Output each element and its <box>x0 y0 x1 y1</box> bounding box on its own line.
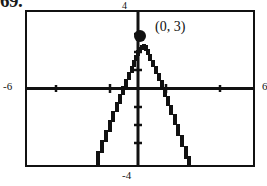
axis-label-top: 4 <box>122 0 127 11</box>
axis-label-right: 6 <box>262 81 267 92</box>
vertex-point-marker <box>134 30 146 42</box>
parabola-curve <box>96 44 191 165</box>
axis-label-bottom: -4 <box>122 170 131 181</box>
axis-label-left: -6 <box>3 81 12 92</box>
figure-container: 69. <box>0 0 267 186</box>
point-coordinate-label: (0, 3) <box>155 19 185 35</box>
problem-number: 69. <box>0 0 22 10</box>
graph-plot <box>25 10 255 167</box>
